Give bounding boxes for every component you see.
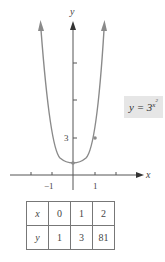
point-0-1 — [71, 161, 75, 165]
table-cell: 1 — [71, 202, 93, 226]
y-axis-label: y — [69, 6, 75, 17]
table-header-y: y — [27, 226, 49, 250]
point-1-3 — [93, 136, 97, 140]
equation-exponent-power: 2 — [155, 98, 158, 103]
values-table: x 0 1 2 y 1 3 81 — [26, 201, 115, 250]
table-cell: 2 — [93, 202, 115, 226]
tick-label-neg1: −1 — [44, 181, 54, 191]
table-cell: 1 — [49, 226, 71, 250]
x-axis-arrow-icon — [136, 172, 144, 178]
table-cell: 0 — [49, 202, 71, 226]
table-row-y: y 1 3 81 — [27, 226, 115, 250]
y-ticks — [73, 63, 77, 138]
x-axis-label: x — [145, 169, 151, 180]
equation-label: y = 3x2 — [124, 96, 163, 118]
y-axis-arrow-icon — [70, 21, 76, 30]
table-cell: 81 — [93, 226, 115, 250]
table-cell: 3 — [71, 226, 93, 250]
equation-lhs: y = 3 — [129, 101, 152, 113]
curve-left-arrow-icon — [38, 20, 44, 31]
tick-label-3: 3 — [64, 133, 69, 143]
table-row-x: x 0 1 2 — [27, 202, 115, 226]
table-header-x: x — [27, 202, 49, 226]
tick-label-1: 1 — [93, 181, 98, 191]
curve-right-arrow-icon — [101, 20, 107, 31]
